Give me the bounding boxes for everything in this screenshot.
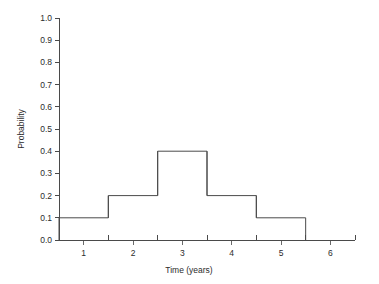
x-tick-label: 1	[81, 248, 86, 258]
x-tick-label: 4	[229, 248, 234, 258]
y-tick-label: 0.2	[40, 191, 52, 201]
x-tick-label: 5	[279, 248, 284, 258]
probability-histogram-chart: 0.00.10.20.30.40.50.60.70.80.91.0 123456…	[0, 0, 379, 284]
y-tick-label: 0.1	[40, 213, 52, 223]
chart-background	[0, 0, 379, 284]
chart-canvas: 0.00.10.20.30.40.50.60.70.80.91.0 123456…	[0, 0, 379, 284]
y-tick-label: 0.5	[40, 124, 52, 134]
y-tick-label: 0.9	[40, 35, 52, 45]
x-tick-label: 6	[328, 248, 333, 258]
x-axis-title: Time (years)	[165, 265, 213, 275]
y-tick-label: 0.7	[40, 80, 52, 90]
y-tick-label: 0.4	[40, 146, 52, 156]
y-tick-label: 0.0	[40, 235, 52, 245]
y-tick-label: 0.6	[40, 102, 52, 112]
x-tick-label: 2	[131, 248, 136, 258]
y-axis-title: Probability	[16, 108, 26, 148]
x-tick-label: 3	[180, 248, 185, 258]
y-tick-label: 0.8	[40, 57, 52, 67]
y-tick-label: 0.3	[40, 168, 52, 178]
y-tick-label: 1.0	[40, 13, 52, 23]
